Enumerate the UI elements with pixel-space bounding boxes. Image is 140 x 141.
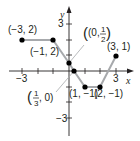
- label-2-neg1: (2, −1): [94, 88, 123, 99]
- point-3-1: [113, 53, 118, 58]
- point-third-0: [71, 68, 76, 73]
- point-neg1-2: [50, 37, 55, 42]
- y-tick-3: 3: [58, 18, 64, 29]
- svg-text:(0,: (0,: [88, 27, 100, 38]
- y-axis-arrow-icon: [67, 6, 72, 13]
- x-tick-3: 3: [113, 73, 119, 84]
- label-neg1-2: (−1, 2): [30, 46, 59, 57]
- point-0-half: [66, 60, 71, 65]
- label-neg3-2: (−3, 2): [8, 24, 37, 35]
- y-tick-neg3: −3: [56, 113, 68, 124]
- x-axis-arrow-icon: [127, 69, 134, 74]
- x-axis-label: x: [125, 75, 131, 86]
- label-third-0: ( 1 3 , 0): [27, 88, 53, 108]
- point-neg3-2: [19, 37, 24, 42]
- label-3-1: (3, 1): [107, 41, 130, 52]
- svg-text:(: (: [27, 88, 32, 105]
- svg-text:, 0): , 0): [39, 92, 53, 103]
- piecewise-graph: y x 3 −3 −3 3 (−3, 2) (−1, 2) (3, 1) (1,…: [0, 0, 140, 141]
- x-tick-neg3: −3: [16, 73, 28, 84]
- svg-text:): ): [106, 24, 111, 41]
